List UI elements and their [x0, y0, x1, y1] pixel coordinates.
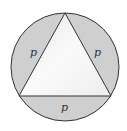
label-right-segment: p	[94, 46, 101, 59]
diagram: p p p	[0, 0, 127, 131]
label-left-segment: p	[30, 46, 37, 59]
label-bottom-segment: p	[61, 101, 68, 114]
